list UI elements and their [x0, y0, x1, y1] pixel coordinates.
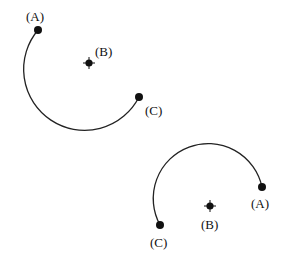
arc-diagram-top: (A) (B) (C)	[24, 9, 163, 130]
point-a-dot	[258, 183, 266, 191]
point-a-label: (A)	[26, 9, 44, 24]
point-b-label: (B)	[201, 217, 218, 232]
point-a-dot	[34, 26, 42, 34]
diagram-canvas: (A) (B) (C) (A) (B) (C)	[0, 0, 291, 262]
point-b-center-marker	[204, 200, 216, 212]
arc-curve	[24, 30, 139, 130]
point-c-label: (C)	[150, 235, 167, 250]
arc-diagram-bottom: (A) (B) (C)	[150, 144, 269, 250]
point-c-label: (C)	[145, 103, 162, 118]
point-b-center-marker	[83, 57, 95, 69]
arc-curve	[153, 144, 262, 225]
point-c-dot	[135, 93, 143, 101]
point-b-label: (B)	[95, 44, 112, 59]
point-a-label: (A)	[251, 196, 269, 211]
point-c-dot	[156, 221, 164, 229]
